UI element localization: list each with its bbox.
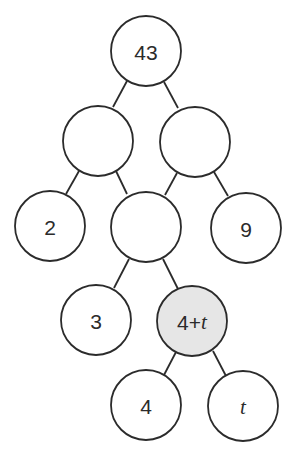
edge-4t-t bbox=[213, 351, 226, 376]
edge-4t-4 bbox=[164, 352, 176, 375]
node-label: 3 bbox=[90, 310, 102, 333]
edge-l1a-mid bbox=[116, 171, 127, 194]
node-4-plus-t-highlighted: 4+t bbox=[157, 286, 227, 356]
edge-root-right bbox=[164, 82, 178, 108]
edge-mid-4t bbox=[163, 259, 178, 289]
node-label: 2 bbox=[44, 216, 56, 239]
node-2: 2 bbox=[15, 191, 85, 261]
node-label-number: 4+ bbox=[177, 311, 201, 334]
node-4: 4 bbox=[111, 370, 181, 440]
factor-tree-diagram: 43 2 9 3 4+t 4 t bbox=[0, 0, 296, 455]
node-9: 9 bbox=[211, 193, 281, 263]
node-root: 43 bbox=[111, 16, 181, 86]
node-t: t bbox=[208, 371, 278, 441]
edge-l1b-9 bbox=[214, 172, 228, 196]
edge-l1a-2 bbox=[66, 171, 79, 194]
node-label: 9 bbox=[240, 218, 252, 241]
edge-l1b-mid bbox=[165, 173, 177, 195]
node-label: 43 bbox=[134, 41, 157, 64]
node-empty-left bbox=[63, 106, 133, 176]
edge-mid-3 bbox=[114, 259, 129, 288]
node-label: 4+t bbox=[177, 310, 208, 334]
node-label: 4 bbox=[140, 395, 152, 418]
node-empty-right bbox=[160, 107, 230, 177]
node-empty-middle bbox=[111, 192, 181, 262]
edge-root-left bbox=[113, 81, 127, 107]
node-3: 3 bbox=[61, 285, 131, 355]
